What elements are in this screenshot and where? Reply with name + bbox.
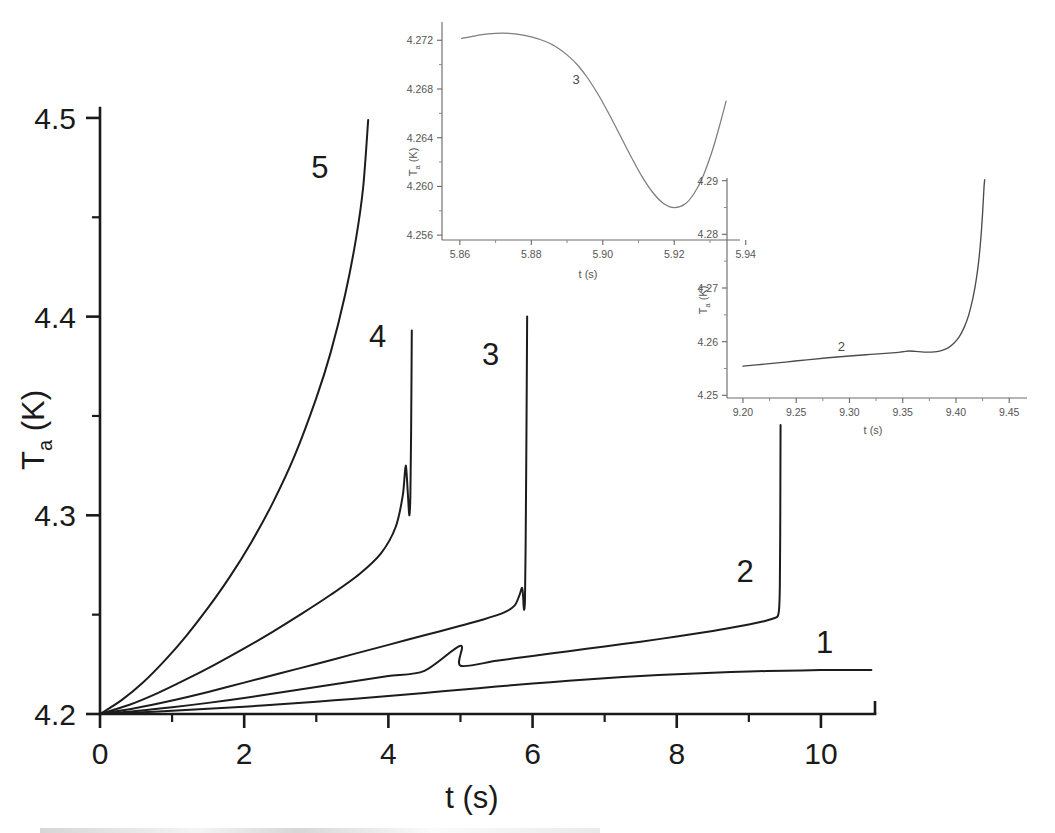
- main-x-tick-label: 0: [92, 737, 109, 770]
- figure-container: 02468104.24.34.44.5 12345 Ta (K) t (s) 5…: [0, 0, 1055, 833]
- main-y-axis-title-text: Ta (K): [16, 390, 56, 470]
- inset-2-x-tick-label: 9.25: [786, 406, 807, 418]
- inset-2-curve-labels: 2: [838, 339, 845, 354]
- main-x-tick-label: 10: [804, 737, 837, 770]
- inset-2-x-tick-label: 9.20: [733, 406, 754, 418]
- inset-1-y-tick-label: 4.260: [407, 180, 433, 192]
- inset-1-y-tick-label: 4.264: [407, 132, 433, 144]
- inset-1-curve-label-3: 3: [572, 72, 579, 87]
- inset-2-x-axis-title: t (s): [864, 424, 883, 436]
- main-curve-label-3: 3: [482, 337, 499, 372]
- inset-1-y-tick-label: 4.272: [407, 34, 433, 46]
- scientific-figure: 02468104.24.34.44.5 12345 Ta (K) t (s) 5…: [0, 0, 1055, 833]
- main-curve-label-5: 5: [311, 150, 328, 185]
- main-y-axis-title: Ta (K): [16, 390, 56, 470]
- inset-2-curve-label-2: 2: [838, 339, 845, 354]
- main-x-axis-title: t (s): [445, 780, 498, 815]
- main-y-tick-label: 4.4: [34, 301, 76, 334]
- inset-1-y-tick-label: 4.268: [407, 83, 433, 95]
- inset-2-x-tick-label: 9.40: [946, 406, 967, 418]
- inset-2-x-tick-label: 9.30: [839, 406, 860, 418]
- main-curve-label-4: 4: [369, 319, 386, 354]
- inset-1-x-tick-label: 5.92: [664, 248, 685, 260]
- main-x-tick-label: 4: [380, 737, 397, 770]
- inset-1-x-tick-label: 5.94: [736, 248, 757, 260]
- inset-1-y-tick-label: 4.256: [407, 229, 433, 241]
- inset-1-x-tick-label: 5.86: [450, 248, 471, 260]
- main-curve-label-1: 1: [816, 625, 833, 660]
- inset-2-y-tick-label: 4.26: [698, 336, 719, 348]
- inset-2-y-tick-label: 4.28: [698, 228, 719, 240]
- inset-2-x-tick-label: 9.35: [893, 406, 914, 418]
- main-y-tick-label: 4.2: [34, 698, 76, 731]
- main-y-tick-label: 4.3: [34, 499, 76, 532]
- y-title-base: T: [16, 451, 51, 470]
- inset-1-x-axis-title: t (s): [579, 268, 598, 280]
- inset-2-y-tick-label: 4.29: [698, 175, 719, 187]
- inset-1-x-tick-label: 5.90: [593, 248, 614, 260]
- inset-1-curve-labels: 3: [572, 72, 579, 87]
- main-x-tick-label: 6: [524, 737, 541, 770]
- main-x-tick-label: 2: [236, 737, 253, 770]
- main-x-tick-label: 8: [668, 737, 685, 770]
- main-y-tick-label: 4.5: [34, 102, 76, 135]
- inset-2-x-tick-label: 9.45: [999, 406, 1020, 418]
- main-curve-label-2: 2: [737, 554, 754, 589]
- inset-2-y-tick-label: 4.25: [698, 389, 719, 401]
- inset-1-x-tick-label: 5.88: [521, 248, 542, 260]
